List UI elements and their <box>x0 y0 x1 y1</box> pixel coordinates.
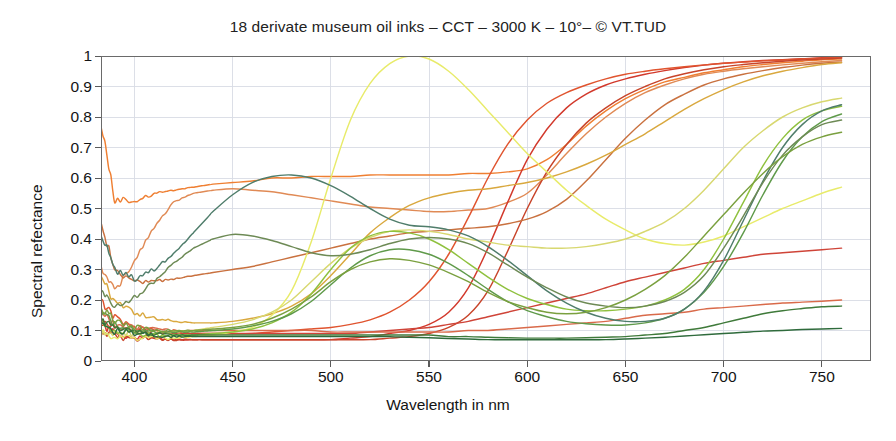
x-tick-label: 650 <box>613 368 639 386</box>
x-tick-label: 500 <box>318 368 344 386</box>
y-tick-label: 0.8 <box>36 108 92 126</box>
x-tick-label: 400 <box>121 368 147 386</box>
chart-title: 18 derivate museum oil inks – CCT – 3000… <box>0 18 896 36</box>
x-axis-label: Wavelength in nm <box>0 396 896 414</box>
x-tick-label: 600 <box>514 368 540 386</box>
y-axis-label: Spectral refectance <box>28 184 46 318</box>
x-tick-label: 450 <box>220 368 246 386</box>
x-tick-mark <box>625 361 626 367</box>
x-tick-mark <box>330 361 331 367</box>
y-tick-label: 0.7 <box>36 139 92 157</box>
x-tick-mark <box>134 361 135 367</box>
x-tick-label: 750 <box>809 368 835 386</box>
y-tick-label: 0.9 <box>36 78 92 96</box>
x-tick-label: 550 <box>416 368 442 386</box>
y-tick-label: 1 <box>36 47 92 65</box>
plot-frame <box>101 56 871 361</box>
y-tick-label: 0 <box>36 352 92 370</box>
x-tick-mark <box>723 361 724 367</box>
x-tick-mark <box>232 361 233 367</box>
plot-area <box>101 56 871 361</box>
x-tick-mark <box>428 361 429 367</box>
spectral-reflectance-figure: 18 derivate museum oil inks – CCT – 3000… <box>0 0 896 441</box>
x-tick-label: 700 <box>711 368 737 386</box>
x-tick-mark <box>821 361 822 367</box>
y-tick-label: 0.1 <box>36 322 92 340</box>
x-tick-mark <box>527 361 528 367</box>
